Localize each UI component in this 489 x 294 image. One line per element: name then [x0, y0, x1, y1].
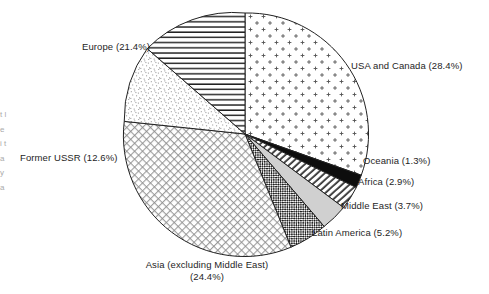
pie-label-asia-excluding-middle-east: Asia (excluding Middle East) (24.4%) — [112, 259, 302, 283]
pie-label-former-ussr: Former USSR (12.6%) — [20, 152, 117, 164]
pie-label-europe: Europe (21.4%) — [82, 41, 150, 53]
pie-label-middle-east: Middle East (3.7%) — [341, 200, 423, 212]
pie-label-africa: Africa (2.9%) — [358, 176, 414, 188]
pie-slices — [123, 12, 368, 256]
pie-label-oceania: Oceania (1.3%) — [363, 155, 430, 167]
pie-chart-figure: USA and Canada (28.4%) Oceania (1.3%) Af… — [0, 0, 489, 294]
pie-label-usa-and-canada: USA and Canada (28.4%) — [351, 60, 463, 72]
pie-label-asia-line-1: Asia (excluding Middle East) — [146, 259, 269, 270]
page-edge-artifact: t l e i t a y a — [0, 108, 7, 284]
pie-chart-svg — [0, 0, 489, 294]
pie-label-latin-america: Latin America (5.2%) — [312, 227, 402, 239]
pie-label-asia-line-2: (24.4%) — [190, 271, 224, 282]
